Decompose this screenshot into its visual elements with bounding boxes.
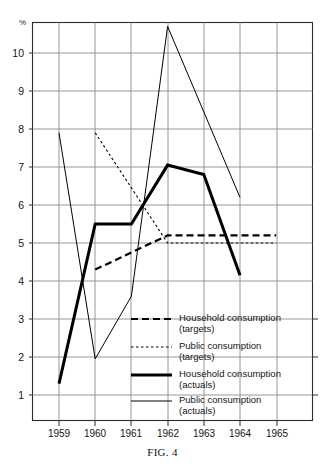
- y-tick-label-6: 6: [6, 199, 24, 211]
- y-tick-label-4: 4: [6, 275, 24, 287]
- legend-label-public-actuals-line1: Public consumption: [179, 395, 261, 406]
- figure-caption-text: FIG. 4: [147, 446, 178, 458]
- legend-label-public-actuals-line2: (actuals): [179, 406, 215, 417]
- y-tick-label-2: 2: [6, 351, 24, 363]
- right-edge-ticks: [313, 319, 319, 395]
- x-tick-label-1962: 1962: [151, 428, 185, 439]
- y-tick-label-3: 3: [6, 313, 24, 325]
- y-tick-label-10: 10: [6, 47, 24, 59]
- x-tick-label-1964: 1964: [223, 428, 257, 439]
- y-tick-label-1: 1: [6, 389, 24, 401]
- y-tick-label-8: 8: [6, 123, 24, 135]
- legend-label-household-actuals-line1: Household consumption: [179, 369, 281, 380]
- legend-label-household-actuals-line2: (actuals): [179, 380, 215, 391]
- y-tick-label-9: 9: [6, 85, 24, 97]
- x-axis-ticks: [59, 421, 277, 427]
- x-tick-label-1959: 1959: [42, 428, 76, 439]
- legend-label-public-targets-line1: Public consumption: [179, 341, 261, 352]
- legend-label-household-targets-line2: (targets): [179, 324, 214, 335]
- x-tick-label-1963: 1963: [187, 428, 221, 439]
- x-tick-label-1965: 1965: [260, 428, 294, 439]
- y-tick-label-5: 5: [6, 237, 24, 249]
- figure-4: % 10 9 8 7 6 5 4 3 2 1 1959 1960 1961 19…: [0, 0, 325, 467]
- y-axis-unit-label: %: [19, 18, 26, 27]
- figure-caption: FIG. 4: [0, 446, 325, 458]
- legend-label-household-targets-line1: Household consumption: [179, 313, 281, 324]
- legend-label-public-targets-line2: (targets): [179, 352, 214, 363]
- plot-frame: [33, 23, 313, 421]
- x-tick-label-1960: 1960: [78, 428, 112, 439]
- x-tick-label-1961: 1961: [114, 428, 148, 439]
- y-tick-label-7: 7: [6, 161, 24, 173]
